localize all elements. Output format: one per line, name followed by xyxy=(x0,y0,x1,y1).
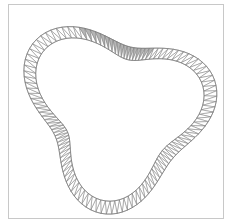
triangulated-ring-diagram xyxy=(0,0,229,222)
ring-triangles xyxy=(24,27,217,214)
inner-boundary xyxy=(36,38,204,201)
